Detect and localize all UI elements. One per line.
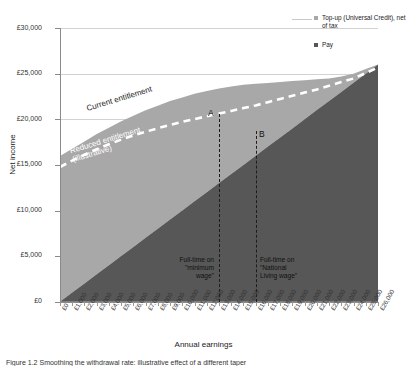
figure-caption: Figure 1.2 Smoothing the withdrawal rate…	[6, 359, 401, 366]
vline-marker-b	[256, 131, 257, 302]
annotation-national-living-wage: Full-time on "National Living wage"	[260, 256, 322, 281]
x-tick-label-0: £0	[60, 302, 70, 312]
y-tick-label-30000: £30,000	[0, 24, 42, 31]
y-tick-label-15000: £15,000	[0, 160, 42, 167]
y-tick-label-5000: £5,000	[0, 251, 42, 258]
annot-min-line2: "minimum	[185, 264, 214, 271]
vline-marker-a	[219, 114, 220, 302]
y-axis-line	[60, 28, 61, 302]
annot-min-line1: Full-time on	[180, 256, 214, 263]
legend-leader-line	[292, 19, 312, 20]
y-axis-title: Net income	[8, 95, 17, 215]
x-axis-title: Annual earnings	[0, 340, 407, 349]
plot-area: A B Current entitlement Reduced entitlem…	[60, 28, 378, 302]
y-tick-label-0: £0	[0, 297, 42, 304]
marker-label-b: B	[259, 129, 265, 139]
y-tick-label-20000: £20,000	[0, 115, 42, 122]
annot-nlw-line2: "National	[260, 264, 287, 271]
y-tick-label-10000: £10,000	[0, 206, 42, 213]
legend-swatch-topup	[314, 16, 318, 20]
marker-label-a: A	[208, 108, 214, 118]
annot-nlw-line1: Full-time on	[260, 256, 294, 263]
annot-min-line3: wage"	[196, 272, 214, 279]
annot-nlw-line3: Living wage"	[260, 272, 297, 279]
annotation-minimum-wage: Full-time on "minimum wage"	[152, 256, 214, 281]
y-tick-label-25000: £25,000	[0, 69, 42, 76]
figure-container: Top-up (Universal Credit), net of tax Pa…	[0, 0, 407, 368]
